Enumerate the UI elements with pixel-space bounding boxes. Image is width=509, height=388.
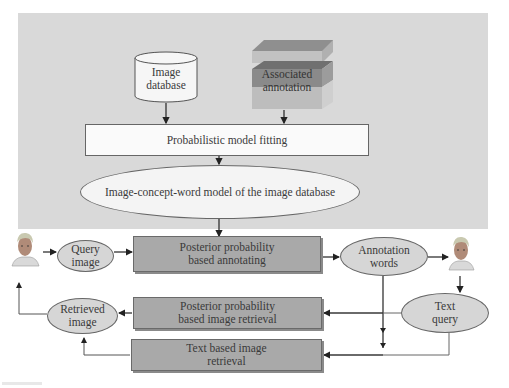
posterior-annotating-node: Posterior probability based annotating [133,236,321,272]
text-based-retrieval-label-1: Text based image [186,342,266,355]
annotation-words-label-1: Annotation [358,244,410,257]
annotation-words-label-2: words [358,257,410,270]
associated-annotation-label-2: annotation [262,81,312,94]
posterior-annotating-label-1: Posterior probability [180,241,275,254]
retrieved-image-label-2: image [60,316,105,329]
text-based-retrieval-node: Text based image retrieval [131,339,322,371]
posterior-retrieval-node: Posterior probability based image retrie… [133,297,322,329]
text-query-node: Text query [401,293,489,333]
associated-annotation-label-1: Associated [262,68,312,81]
image-concept-word-model-node: Image-concept-word model of the image da… [80,165,360,219]
text-query-label-1: Text [432,300,458,313]
query-image-label-1: Query [71,243,100,256]
posterior-retrieval-label-2: based image retrieval [178,313,276,326]
associated-annotation-node: Associated annotation [252,66,322,96]
posterior-annotating-label-2: based annotating [180,254,275,267]
user-face-icon-left [12,233,39,266]
figure-caption-fragment [2,382,42,385]
annotation-words-node: Annotation words [340,237,428,276]
posterior-retrieval-label-1: Posterior probability [178,300,276,313]
image-database-label-2: database [146,79,186,92]
image-database-node: Image database [135,64,197,94]
retrieved-image-label-1: Retrieved [60,303,105,316]
probabilistic-model-fitting-node: Probabilistic model fitting [85,124,369,156]
user-face-icon-right [449,237,474,270]
query-image-label-2: image [71,256,100,269]
image-database-label-1: Image [146,66,186,79]
query-image-node: Query image [57,240,114,272]
probabilistic-model-fitting-label: Probabilistic model fitting [167,134,288,147]
retrieved-image-node: Retrieved image [47,298,118,334]
text-based-retrieval-label-2: retrieval [186,355,266,368]
image-concept-word-model-label: Image-concept-word model of the image da… [105,186,335,199]
text-query-label-2: query [432,313,458,326]
